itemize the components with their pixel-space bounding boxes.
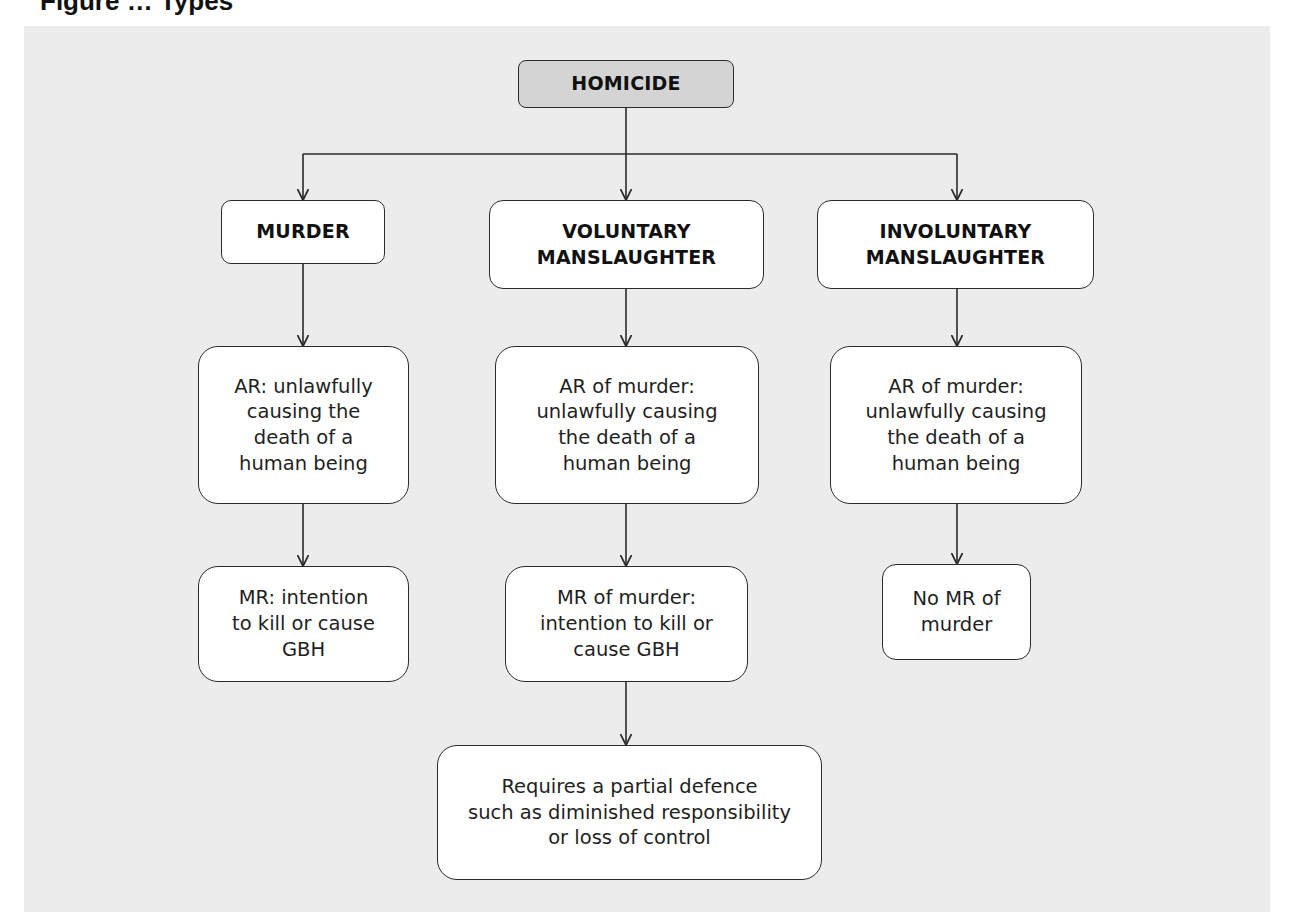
- node-voluntary-actus-reus-text: AR of murder: unlawfully causing the dea…: [536, 374, 717, 477]
- node-murder-actus-reus-text: AR: unlawfully causing the death of a hu…: [234, 374, 373, 477]
- node-involuntary-mens-rea-text: No MR of murder: [912, 586, 1000, 637]
- node-murder: MURDER: [221, 200, 385, 264]
- node-voluntary-mens-rea-text: MR of murder: intention to kill or cause…: [540, 585, 713, 662]
- node-voluntary-actus-reus: AR of murder: unlawfully causing the dea…: [495, 346, 759, 504]
- node-voluntary-manslaughter-label: VOLUNTARY MANSLAUGHTER: [537, 219, 716, 269]
- node-involuntary-actus-reus: AR of murder: unlawfully causing the dea…: [830, 346, 1082, 504]
- node-homicide-label: HOMICIDE: [571, 71, 680, 96]
- node-voluntary-manslaughter: VOLUNTARY MANSLAUGHTER: [489, 200, 764, 289]
- node-murder-mens-rea-text: MR: intention to kill or cause GBH: [232, 585, 375, 662]
- node-involuntary-manslaughter: INVOLUNTARY MANSLAUGHTER: [817, 200, 1094, 289]
- node-partial-defence-requirement-text: Requires a partial defence such as dimin…: [468, 774, 791, 851]
- node-homicide: HOMICIDE: [518, 60, 734, 108]
- node-involuntary-actus-reus-text: AR of murder: unlawfully causing the dea…: [865, 374, 1046, 477]
- node-involuntary-mens-rea: No MR of murder: [882, 564, 1031, 660]
- figure-caption-partial: Figure … Types: [40, 0, 233, 17]
- node-murder-actus-reus: AR: unlawfully causing the death of a hu…: [198, 346, 409, 504]
- node-partial-defence-requirement: Requires a partial defence such as dimin…: [437, 745, 822, 880]
- node-involuntary-manslaughter-label: INVOLUNTARY MANSLAUGHTER: [866, 219, 1045, 269]
- node-murder-label: MURDER: [256, 219, 350, 244]
- node-murder-mens-rea: MR: intention to kill or cause GBH: [198, 566, 409, 682]
- node-voluntary-mens-rea: MR of murder: intention to kill or cause…: [505, 566, 748, 682]
